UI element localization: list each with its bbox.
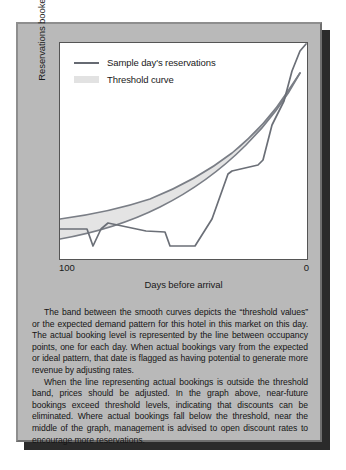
x-axis-label: Days before arrival	[59, 279, 308, 290]
legend-item-threshold: Threshold curve	[74, 72, 216, 87]
caption-paragraph-2: When the line representing actual bookin…	[32, 377, 308, 447]
threshold-curve-upper	[60, 73, 300, 219]
x-tick-right: 0	[301, 262, 309, 273]
band-swatch-icon	[74, 76, 99, 83]
figure-root: Sample day's reservations Threshold curv…	[0, 0, 346, 470]
x-tick-left: 100	[59, 262, 75, 273]
legend-label-sample: Sample day's reservations	[107, 57, 216, 68]
chart-block: Sample day's reservations Threshold curv…	[59, 42, 308, 260]
plot-area: Sample day's reservations Threshold curv…	[59, 42, 308, 260]
line-swatch-icon	[74, 62, 99, 64]
figure-panel: Sample day's reservations Threshold curv…	[16, 22, 322, 442]
y-axis-label: Reservations booked	[36, 0, 47, 102]
caption-paragraph-1: The band between the smooth curves depic…	[32, 307, 308, 377]
chart-legend: Sample day's reservations Threshold curv…	[74, 55, 216, 89]
legend-label-threshold: Threshold curve	[107, 74, 174, 85]
figure-caption: The band between the smooth curves depic…	[32, 307, 308, 446]
legend-item-sample: Sample day's reservations	[74, 55, 216, 70]
